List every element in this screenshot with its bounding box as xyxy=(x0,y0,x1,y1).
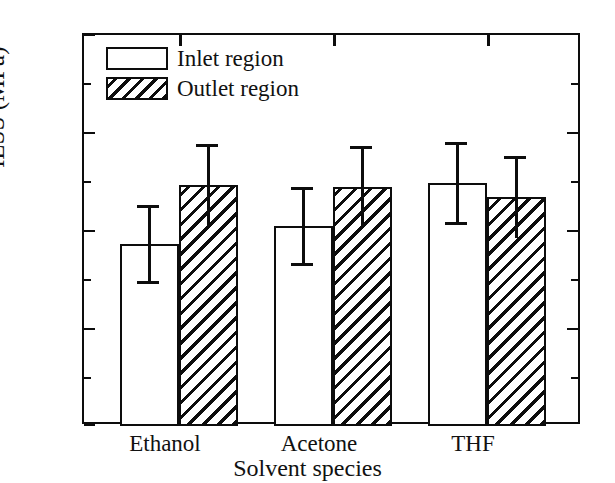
errorbar-ethanol-outlet-cap-top xyxy=(196,144,218,147)
errorbar-acetone-inlet-cap-top xyxy=(291,187,313,190)
errorbar-ethanol-inlet-cap-top xyxy=(137,205,159,208)
x-tick-label-thf: THF xyxy=(403,432,543,455)
hatched-rectangle-swatch-icon xyxy=(106,77,168,100)
y-tick-minor-42-5 xyxy=(84,181,91,184)
errorbar-ethanol-outlet-stem xyxy=(207,144,210,226)
y-tick-minor-right-42-5 xyxy=(571,181,578,184)
legend: Inlet region Outlet region xyxy=(106,43,299,103)
y-tick-45 xyxy=(84,132,95,135)
errorbar-acetone-inlet-stem xyxy=(302,187,305,265)
legend-label-outlet: Outlet region xyxy=(177,77,299,100)
errorbar-acetone-outlet-stem xyxy=(361,146,364,228)
y-tick-minor-47-5 xyxy=(84,83,91,86)
y-tick-40 xyxy=(84,230,95,233)
errorbar-thf-outlet-cap-top xyxy=(504,156,526,159)
y-axis-title: ILSS (MPa) xyxy=(0,46,10,168)
open-rectangle-swatch-icon xyxy=(106,47,168,70)
y-tick-right-45 xyxy=(567,132,578,135)
errorbar-thf-outlet-stem xyxy=(515,156,518,238)
legend-item-inlet: Inlet region xyxy=(106,43,299,73)
plot-area: 50 45 40 35 30 xyxy=(82,33,580,424)
y-tick-right-35 xyxy=(567,328,578,331)
chart-figure: ILSS (MPa) 50 45 40 35 30 xyxy=(0,0,615,483)
x-axis-title: Solvent species xyxy=(0,455,615,482)
y-tick-right-40 xyxy=(567,230,578,233)
y-tick-minor-right-37-5 xyxy=(571,279,578,282)
errorbar-ethanol-inlet-stem xyxy=(148,205,151,283)
y-tick-minor-32-5 xyxy=(84,377,91,380)
x-tick-label-acetone: Acetone xyxy=(249,432,389,455)
x-tick-top-3 xyxy=(487,35,490,46)
legend-item-outlet: Outlet region xyxy=(106,73,299,103)
y-tick-minor-right-47-5 xyxy=(571,83,578,86)
x-tick-top-2 xyxy=(333,35,336,46)
legend-label-inlet: Inlet region xyxy=(177,47,284,70)
errorbar-thf-inlet-stem xyxy=(456,142,459,224)
x-tick-label-ethanol: Ethanol xyxy=(95,432,235,455)
y-tick-30 xyxy=(84,424,95,427)
errorbar-thf-inlet-cap-bottom xyxy=(445,222,467,225)
y-tick-minor-37-5 xyxy=(84,279,91,282)
errorbar-acetone-inlet-cap-bottom xyxy=(291,263,313,266)
y-tick-35 xyxy=(84,328,95,331)
y-tick-minor-right-32-5 xyxy=(571,377,578,380)
errorbar-ethanol-inlet-cap-bottom xyxy=(137,281,159,284)
errorbar-acetone-outlet-cap-top xyxy=(350,146,372,149)
errorbar-thf-inlet-cap-top xyxy=(445,142,467,145)
y-tick-50 xyxy=(84,34,95,37)
